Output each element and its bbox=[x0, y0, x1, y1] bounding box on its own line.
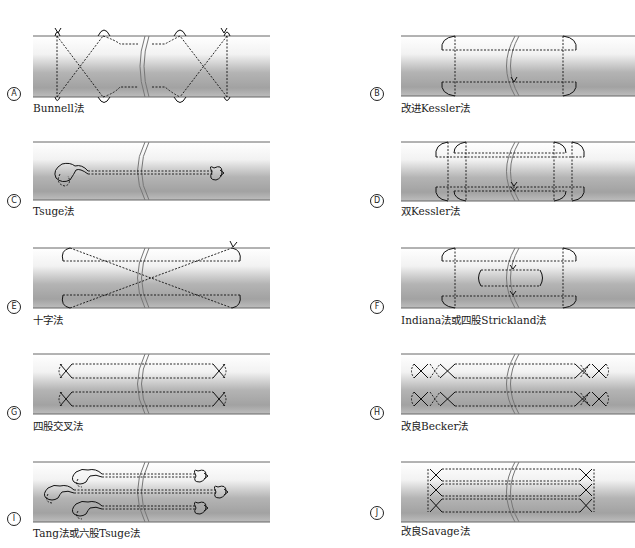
panel-modified-becker: H 改良Becker法 bbox=[318, 318, 635, 424]
tendon-illustration-cruciate bbox=[0, 212, 317, 318]
panel-four-strand-cross: G 四股交叉法 bbox=[0, 318, 317, 424]
tendon-illustration-tsuge bbox=[0, 106, 317, 212]
panel-double-kessler: D 双Kessler法 bbox=[318, 106, 635, 212]
tendon-illustration-four-strand-cross bbox=[0, 318, 317, 424]
panel-label-tang-six-strand-tsuge: Tang法或六股Tsuge法 bbox=[33, 525, 140, 540]
panel-badge-e: E bbox=[7, 300, 21, 314]
panel-badge-i: I bbox=[7, 512, 21, 526]
panel-cruciate: E 十字法 bbox=[0, 212, 317, 318]
panel-badge-j: J bbox=[370, 506, 384, 520]
panel-label-modified-savage: 改良Savage法 bbox=[401, 523, 470, 538]
tendon-illustration-modified-kessler bbox=[318, 0, 635, 106]
tendon-illustration-bunnell bbox=[0, 0, 317, 106]
tendon-illustration-modified-savage bbox=[318, 424, 635, 530]
panel-badge-a: A bbox=[7, 87, 21, 101]
panel-badge-b: B bbox=[370, 87, 384, 101]
panel-badge-h: H bbox=[370, 406, 384, 420]
tendon-illustration-double-kessler bbox=[318, 106, 635, 212]
panel-modified-savage: J 改良Savage法 bbox=[318, 424, 635, 530]
tendon-illustration-tang-six-strand-tsuge bbox=[0, 424, 317, 530]
tendon-illustration-modified-becker bbox=[318, 318, 635, 424]
panel-modified-kessler: B 改进Kessler法 bbox=[318, 0, 635, 106]
panel-badge-g: G bbox=[7, 406, 21, 420]
panel-badge-c: C bbox=[7, 194, 21, 208]
panel-tang-six-strand-tsuge: I Tang法或六股Tsuge法 bbox=[0, 424, 317, 530]
panel-badge-d: D bbox=[370, 194, 384, 208]
panel-badge-f: F bbox=[370, 300, 384, 314]
panel-bunnell: A Bunnell法 bbox=[0, 0, 317, 106]
panel-tsuge: C Tsuge法 bbox=[0, 106, 317, 212]
panel-indiana-strickland: F Indiana法或四股Strickland法 bbox=[318, 212, 635, 318]
tendon-illustration-indiana-strickland bbox=[318, 212, 635, 318]
